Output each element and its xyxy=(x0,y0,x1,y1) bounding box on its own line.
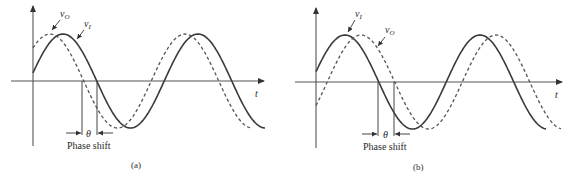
vi-pointer-arrow xyxy=(77,30,84,39)
theta-label: θ xyxy=(86,128,91,139)
t-axis-label: t xyxy=(555,89,558,100)
vo-pointer-arrow xyxy=(378,37,385,46)
phase-shift-label: Phase shift xyxy=(67,140,111,151)
panel-a: t vO vI θ Phase shift (a) xyxy=(11,6,265,170)
theta-label: θ xyxy=(383,129,388,140)
vi-label: vI xyxy=(84,18,91,31)
vi-label: vI xyxy=(355,8,362,21)
panel-caption-b: (b) xyxy=(413,162,424,172)
vo-pointer-arrow xyxy=(52,20,60,30)
vo-label: vO xyxy=(385,24,395,37)
vi-pointer-arrow xyxy=(348,20,355,32)
phase-shift-label: Phase shift xyxy=(363,141,407,152)
phase-shift-figure: t vO vI θ Phase shift (a) t vI xyxy=(0,0,570,186)
panel-b: t vI vO θ Phase shift (b) xyxy=(295,8,562,172)
t-axis-label: t xyxy=(255,88,258,99)
vo-label: vO xyxy=(60,8,70,21)
panel-caption-a: (a) xyxy=(131,160,141,170)
